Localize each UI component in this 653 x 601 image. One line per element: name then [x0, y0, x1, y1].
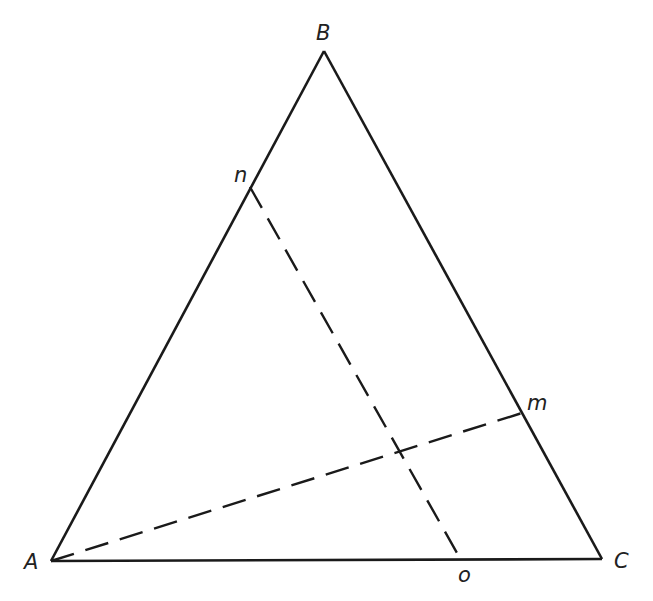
side-BC: [324, 51, 602, 559]
label-vertex-B: B: [316, 21, 330, 45]
side-AB: [51, 51, 324, 561]
label-vertex-C: C: [614, 549, 629, 573]
dashed-line-A-m: [51, 413, 522, 561]
label-point-n: n: [234, 163, 247, 187]
triangle-diagram: B A C n m o: [0, 0, 653, 601]
side-AC: [51, 559, 602, 561]
label-vertex-A: A: [22, 550, 38, 574]
label-point-o: o: [458, 563, 471, 587]
label-point-m: m: [527, 391, 547, 415]
